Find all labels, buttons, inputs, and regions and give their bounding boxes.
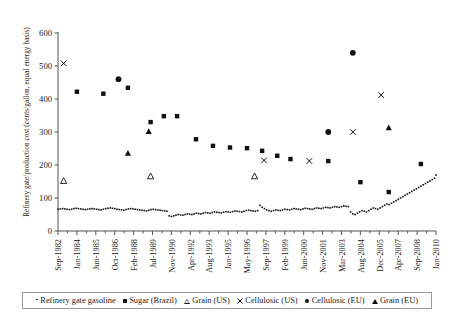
legend-marker-cross-icon [237, 298, 243, 304]
data-point-dot [189, 213, 191, 215]
data-point-dot [284, 208, 286, 210]
data-point-dot [200, 213, 202, 215]
data-point-dot [255, 210, 257, 212]
legend-item-cellulosic-eu[interactable]: Cellulosic (EU) [305, 296, 365, 304]
data-point-dot [87, 208, 89, 210]
legend-item-sugar-brazil[interactable]: Sugar (Brazil) [123, 296, 177, 304]
data-point-dot [177, 214, 179, 216]
data-point-square [326, 159, 330, 163]
data-point-dot [123, 209, 125, 211]
data-point-dot [214, 211, 216, 213]
x-tick-label: Jan-2010 [432, 239, 441, 269]
data-point-dot [431, 179, 433, 181]
data-point-dot [259, 205, 261, 207]
legend-label: Grain (EU) [380, 297, 418, 305]
data-point-dot [137, 209, 139, 211]
data-point-dot [304, 207, 306, 209]
data-point-dot [270, 210, 272, 212]
x-tick-label: Oct-1986 [111, 239, 120, 270]
data-point-dot [266, 209, 268, 211]
x-tick-label: May-1996 [243, 239, 252, 274]
data-point-dot [94, 208, 96, 210]
data-point-dot [386, 203, 388, 205]
data-point-dot [357, 212, 359, 214]
data-point-dot [329, 207, 331, 209]
data-point-square [419, 162, 423, 166]
data-point-dot [187, 213, 189, 215]
data-point-dot [280, 210, 282, 212]
legend-item-grain-eu[interactable]: Grain (EU) [372, 296, 418, 304]
data-point-dot [103, 208, 105, 210]
y-tick-label: 300 [39, 127, 52, 137]
data-point-cross [378, 92, 384, 98]
data-point-dot [84, 209, 86, 211]
data-point-dot [150, 209, 152, 211]
data-point-dot [241, 211, 243, 213]
legend-item-cellulosic-us[interactable]: Cellulosic (US) [237, 296, 298, 304]
series-refinery-gate-gasoline [57, 174, 437, 217]
data-point-dot [171, 216, 173, 218]
data-point-dot [332, 206, 334, 208]
x-tick-label: Apr-2007 [394, 239, 403, 271]
data-point-dot [234, 210, 236, 212]
data-point-dot [146, 210, 148, 212]
legend-item-refinery-gate-gasoline[interactable]: Refinery gate gasoline [36, 296, 116, 304]
data-point-dot [121, 209, 123, 211]
data-point-dot [216, 211, 218, 213]
data-point-dot [164, 210, 166, 212]
legend-item-grain-us[interactable]: Grain (US) [184, 296, 230, 304]
data-point-square [275, 154, 279, 158]
x-tick-label: Apr-1992 [187, 239, 196, 271]
data-point-dot [125, 209, 127, 211]
data-point-dot [291, 208, 293, 210]
data-point-dot [60, 208, 62, 210]
data-point-dot [80, 208, 82, 210]
data-point-dot [427, 181, 429, 183]
data-point-dot [422, 184, 424, 186]
data-point-dot [71, 208, 73, 210]
data-point-dot [211, 212, 213, 214]
data-point-dot [407, 193, 409, 195]
legend-label: Cellulosic (EU) [312, 297, 365, 305]
data-point-dot [205, 212, 207, 214]
data-point-dot [325, 206, 327, 208]
data-point-dot [277, 209, 279, 211]
data-point-dot [143, 210, 145, 212]
data-point-dot [298, 208, 300, 210]
data-point-dot [341, 206, 343, 208]
x-tick-label: Feb-1988 [130, 239, 139, 271]
data-point-dot [289, 209, 291, 211]
data-point-dot [107, 207, 109, 209]
data-point-square [162, 114, 166, 118]
data-point-square [260, 149, 264, 153]
data-point-dot [336, 206, 338, 208]
legend-marker-square-icon [123, 299, 127, 303]
data-point-dot [162, 210, 164, 212]
data-point-dot [98, 209, 100, 211]
data-point-dot [345, 206, 347, 208]
x-tick-label: Jun-1985 [92, 239, 101, 270]
data-point-dot [202, 212, 204, 214]
data-point-dot [139, 209, 141, 211]
data-point-dot [109, 207, 111, 209]
x-tick-label: Dec-2005 [376, 239, 385, 272]
data-point-cross [350, 129, 356, 135]
data-point-dot [350, 211, 352, 213]
data-point-dot [273, 210, 275, 212]
data-point-dot [354, 214, 356, 216]
data-point-dot [155, 209, 157, 211]
data-point-dot [134, 208, 136, 210]
legend-label: Refinery gate gasoline [40, 297, 115, 305]
data-point-dot [338, 206, 340, 208]
data-point-dot [96, 208, 98, 210]
legend-label: Sugar (Brazil) [129, 297, 177, 305]
data-point-dot [168, 215, 170, 217]
data-point-dot [370, 208, 372, 210]
x-tick-label: Sep-1997 [262, 239, 271, 271]
data-point-dot [239, 211, 241, 213]
data-point-dot [307, 208, 309, 210]
y-tick-label: 500 [39, 61, 52, 71]
data-point-dot [218, 212, 220, 214]
data-point-dot [78, 208, 80, 210]
series-cellulosic-us [61, 61, 384, 164]
